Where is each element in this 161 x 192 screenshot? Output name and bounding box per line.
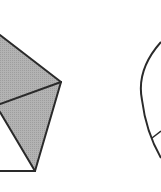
geometry-diagram	[0, 0, 161, 192]
shaded-pentagon-fragment	[0, 35, 61, 171]
circle-fragment	[141, 42, 161, 158]
circle-arc	[141, 42, 161, 158]
circle-chord	[152, 131, 161, 138]
